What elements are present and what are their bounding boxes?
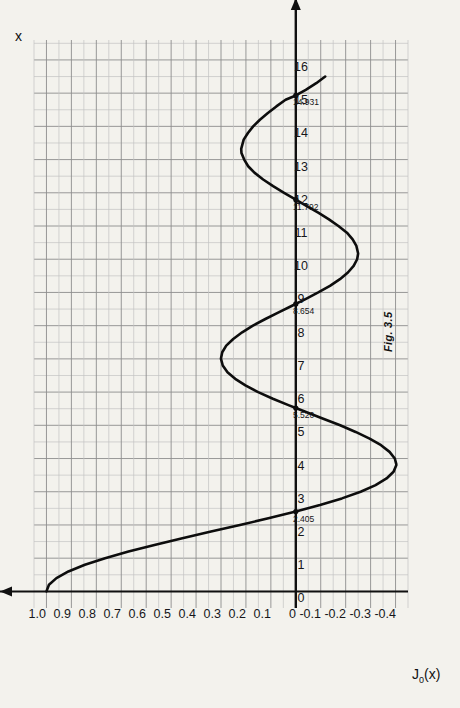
x-tick-label-9: 9 (297, 292, 304, 306)
zero-annotation-11p792: 11.792 (293, 202, 318, 212)
x-tick-label-10: 10 (294, 259, 308, 273)
zero-annotation-14p931: 14.931 (293, 97, 319, 107)
x-tick-label-2: 2 (297, 525, 304, 539)
x-axis-title: x (15, 28, 22, 44)
figure-caption: Fig. 3.5 (382, 312, 394, 352)
y-axis-title-text: J0(x) (412, 666, 440, 685)
y-axis-title: J0(x) (412, 666, 440, 685)
y-tick-label-0p9: 0.9 (54, 607, 71, 621)
y-tick-label-0p2: 0.2 (229, 607, 246, 621)
x-tick-label-3: 3 (297, 492, 304, 506)
zero-annotation-5p520: 5.520 (293, 410, 314, 420)
y-tick-label-0p6: 0.6 (129, 607, 146, 621)
y-tick-label-neg0p4: -0.4 (374, 607, 396, 621)
x-tick-label-8: 8 (297, 326, 304, 340)
x-tick-label-5: 5 (297, 425, 304, 439)
x-tick-label-1: 1 (297, 558, 304, 572)
plot-area (34, 40, 408, 608)
figure-page: x J0(x) 012345678910111213141516 1.00.90… (0, 0, 460, 708)
zero-annotation-8p654: 8.654 (293, 306, 314, 316)
zero-annotation-2p405: 2.405 (293, 514, 314, 524)
x-tick-label-13: 13 (294, 160, 308, 174)
y-tick-label-0p8: 0.8 (79, 607, 96, 621)
caption-wrapper: Fig. 3.5 (382, 330, 442, 390)
x-tick-label-4: 4 (297, 459, 304, 473)
y-tick-label-0p7: 0.7 (104, 607, 121, 621)
y-axis-arrow-icon (0, 586, 12, 596)
y-axis-title-J: J (412, 666, 419, 682)
y-tick-label-0: 0 (289, 607, 296, 621)
y-tick-label-0p5: 0.5 (154, 607, 171, 621)
y-tick-label-neg0p1: -0.1 (299, 607, 321, 621)
y-axis-title-arg: (x) (424, 666, 440, 682)
y-tick-label-neg0p2: -0.2 (324, 607, 346, 621)
chart-svg (34, 40, 408, 608)
x-tick-label-6: 6 (297, 392, 304, 406)
y-tick-label-0p3: 0.3 (204, 607, 221, 621)
x-tick-label-14: 14 (294, 126, 308, 140)
x-axis-arrow-icon (291, 0, 301, 10)
y-tick-label-0p1: 0.1 (253, 607, 270, 621)
x-tick-label-7: 7 (297, 359, 304, 373)
y-tick-label-0p4: 0.4 (179, 607, 196, 621)
x-tick-label-11: 11 (294, 226, 307, 240)
x-tick-label-0: 0 (297, 591, 304, 605)
y-tick-label-1p0: 1.0 (29, 607, 46, 621)
y-tick-label-neg0p3: -0.3 (349, 607, 371, 621)
x-tick-label-16: 16 (294, 60, 308, 74)
